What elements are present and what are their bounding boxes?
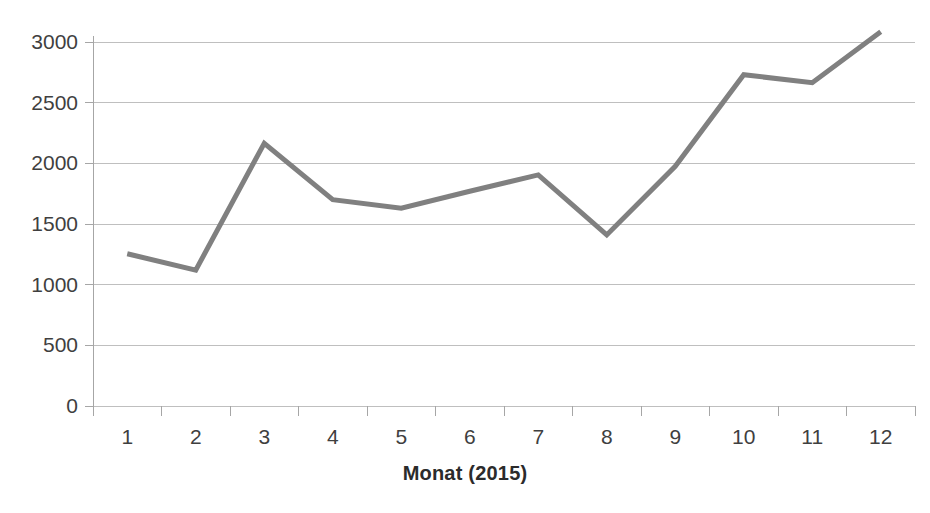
y-tick-label: 2500 — [31, 92, 78, 113]
line-chart: 050010001500200025003000 123456789101112… — [0, 0, 930, 513]
y-tick-label: 3000 — [31, 31, 78, 52]
x-tick-label: 3 — [258, 426, 270, 447]
x-tick-label: 5 — [395, 426, 407, 447]
y-tick-label: 2000 — [31, 152, 78, 173]
y-tick-label: 1500 — [31, 213, 78, 234]
y-tick-label: 1000 — [31, 274, 78, 295]
x-tick-label: 10 — [732, 426, 755, 447]
x-tick-label: 8 — [601, 426, 613, 447]
y-axis-tick-labels: 050010001500200025003000 — [0, 0, 78, 513]
x-tick-label: 12 — [869, 426, 892, 447]
x-tick-label: 9 — [669, 426, 681, 447]
x-axis-tick-labels: 123456789101112 — [93, 418, 915, 450]
plot-area — [93, 20, 915, 406]
x-tick-label: 1 — [121, 426, 133, 447]
y-tick-label: 0 — [66, 395, 78, 416]
x-tick-label: 4 — [327, 426, 339, 447]
x-tick-label: 7 — [532, 426, 544, 447]
x-tick-label: 2 — [190, 426, 202, 447]
data-series-line — [93, 20, 915, 406]
x-tick-label: 11 — [801, 426, 823, 447]
y-tick-label: 500 — [43, 334, 78, 355]
x-axis-title: Monat (2015) — [0, 462, 930, 485]
x-tick-label: 6 — [464, 426, 476, 447]
